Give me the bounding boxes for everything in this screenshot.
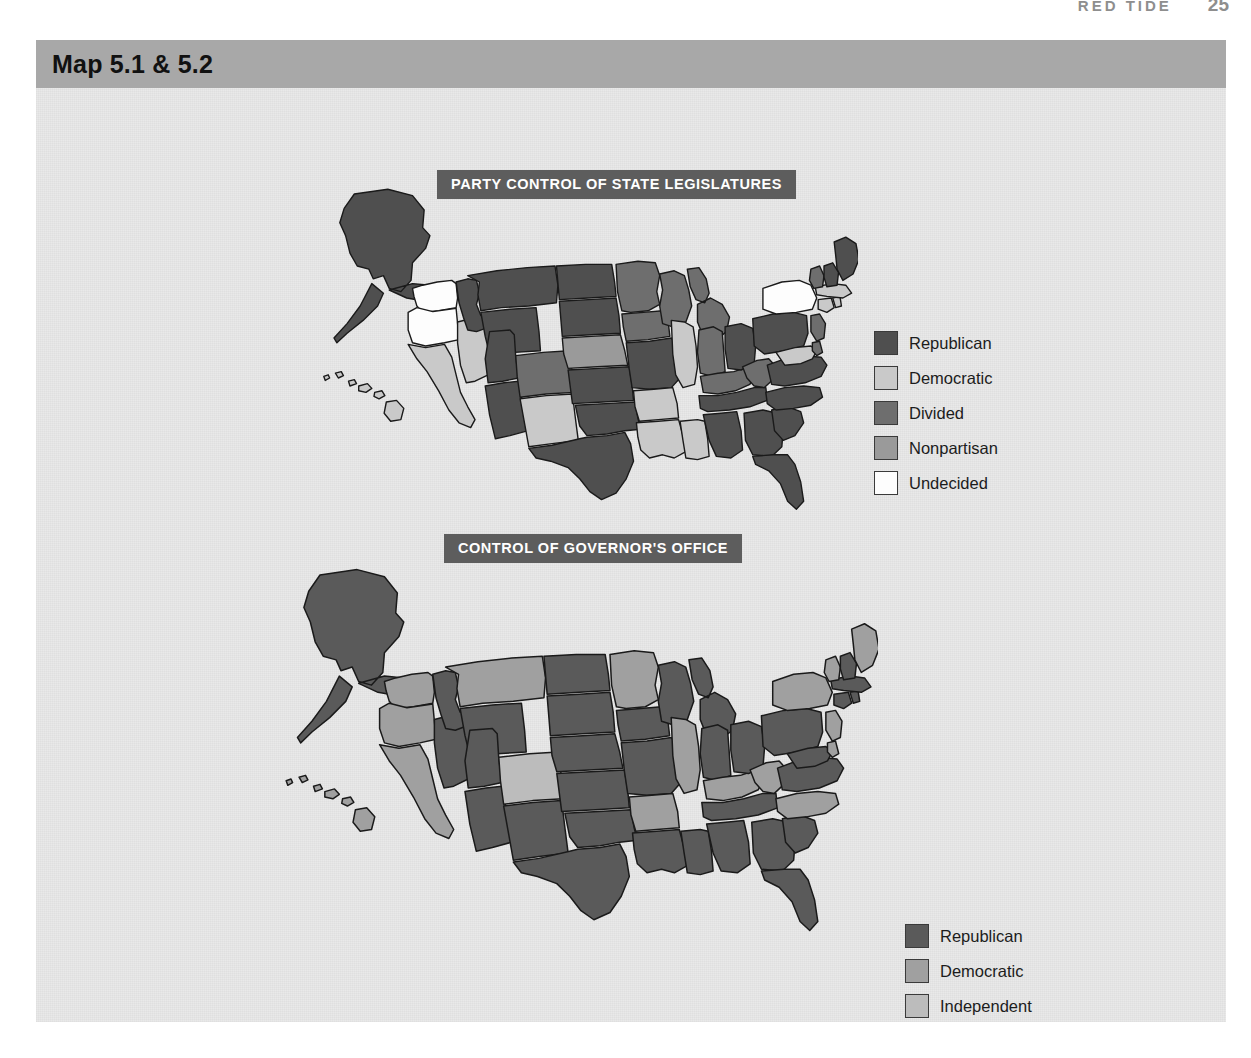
state-ok <box>575 402 640 436</box>
figure-panel: Map 5.1 & 5.2 PARTY CONTROL OF STATE LEG… <box>36 40 1226 1022</box>
running-head-title: RED TIDE <box>1078 0 1172 14</box>
legend-label: Republican <box>909 334 992 353</box>
legend-legislatures: RepublicanDemocraticDividedNonpartisanUn… <box>874 331 998 506</box>
legend-row: Republican <box>874 331 998 355</box>
state-nj <box>811 314 826 341</box>
state-nm <box>504 801 568 861</box>
state-ms <box>680 420 709 460</box>
state-ks <box>557 770 630 812</box>
state-de <box>827 741 838 757</box>
state-ar <box>629 793 679 831</box>
legend-swatch-independent <box>905 994 929 1018</box>
legend-governors: RepublicanDemocraticIndependent <box>905 924 1032 1029</box>
legend-label: Democratic <box>940 962 1023 981</box>
us-map-governors <box>258 568 878 1008</box>
state-ms <box>681 830 713 875</box>
running-head: RED TIDE 25 <box>0 0 1251 14</box>
legend-swatch-republican <box>905 924 929 948</box>
state-ct <box>834 692 852 708</box>
legend-label: Divided <box>909 404 964 423</box>
figure-label: Map 5.1 & 5.2 <box>52 50 213 79</box>
state-nm <box>520 394 578 447</box>
us-map-legislatures <box>298 188 858 578</box>
legend-label: Republican <box>940 927 1023 946</box>
legend-label: Undecided <box>909 474 988 493</box>
state-in <box>700 725 731 781</box>
state-nj <box>826 710 842 741</box>
legend-swatch-democratic <box>874 366 898 390</box>
state-la <box>633 830 688 873</box>
state-mt <box>446 656 546 707</box>
state-hi <box>324 372 404 422</box>
panel-header: Map 5.1 & 5.2 <box>36 40 1226 88</box>
legend-row: Democratic <box>905 959 1032 983</box>
state-nd <box>544 654 610 694</box>
legend-label: Independent <box>940 997 1032 1016</box>
page-number: 25 <box>1208 0 1229 14</box>
state-hi <box>286 775 375 831</box>
map-title-governors: CONTROL OF GOVERNOR'S OFFICE <box>444 534 742 563</box>
legend-row: Democratic <box>874 366 998 390</box>
state-ny <box>773 672 833 710</box>
state-sd <box>559 298 620 336</box>
legend-row: Undecided <box>874 471 998 495</box>
state-vt <box>824 656 840 681</box>
state-la <box>636 420 685 458</box>
state-fl <box>761 869 817 930</box>
state-ct <box>818 298 834 312</box>
legend-swatch-undecided <box>874 471 898 495</box>
map-block-legislatures: PARTY CONTROL OF STATE LEGISLATURES Repu… <box>36 88 1226 568</box>
state-ne <box>550 734 623 772</box>
state-ne <box>562 335 627 369</box>
state-nc <box>766 386 823 410</box>
legend-swatch-nonpartisan <box>874 436 898 460</box>
legend-label: Nonpartisan <box>909 439 998 458</box>
state-de <box>812 341 822 355</box>
legend-row: Nonpartisan <box>874 436 998 460</box>
state-ok <box>565 810 638 848</box>
state-ut <box>485 330 518 383</box>
state-nc <box>776 792 839 819</box>
legend-label: Democratic <box>909 369 992 388</box>
legend-row: Divided <box>874 401 998 425</box>
state-ks <box>568 367 633 404</box>
legend-swatch-republican <box>874 331 898 355</box>
state-ny <box>763 280 817 314</box>
map-title-legislatures: PARTY CONTROL OF STATE LEGISLATURES <box>437 170 796 199</box>
legend-row: Independent <box>905 994 1032 1018</box>
state-nd <box>556 264 616 299</box>
legend-swatch-democratic <box>905 959 929 983</box>
state-mt <box>468 266 558 311</box>
state-wi <box>660 271 692 327</box>
state-fl <box>753 455 804 509</box>
state-mn <box>610 651 658 709</box>
state-mn <box>616 261 660 312</box>
state-or <box>380 703 436 746</box>
state-wi <box>658 662 693 725</box>
legend-swatch-divided <box>874 401 898 425</box>
legend-row: Republican <box>905 924 1032 948</box>
state-or <box>408 308 459 346</box>
state-sd <box>547 692 615 735</box>
state-ar <box>634 388 679 422</box>
map-block-governors: CONTROL OF GOVERNOR'S OFFICE RepublicanD… <box>36 520 1226 1022</box>
state-ut <box>465 728 502 788</box>
state-vt <box>809 266 824 288</box>
state-in <box>697 327 725 377</box>
